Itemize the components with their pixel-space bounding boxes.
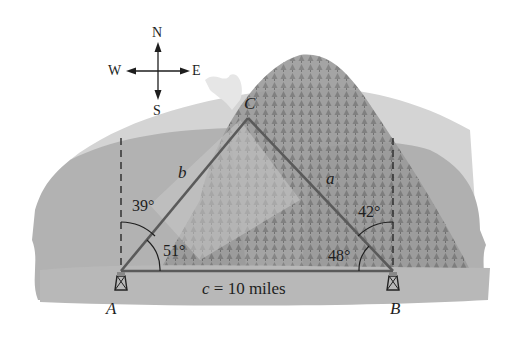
triangulation-diagram: N S W E C A B b a cc = 10 miles = 10 mil…: [0, 0, 515, 338]
compass-west-label: W: [108, 64, 121, 78]
vertex-label-b: B: [390, 300, 400, 317]
arrow-west-icon: [126, 68, 136, 75]
vertex-label-a: A: [106, 300, 116, 317]
arrow-south-icon: [155, 90, 162, 100]
angle-label-a-interior: 51°: [163, 243, 185, 259]
side-label-b: b: [178, 164, 187, 181]
landscape-background: [32, 55, 490, 306]
vertex-label-c: C: [244, 95, 255, 112]
side-label-c: cc = 10 miles = 10 miles: [202, 280, 286, 297]
angle-label-b-north: 42°: [358, 204, 380, 220]
side-label-a: a: [326, 170, 335, 187]
angle-label-a-north: 39°: [132, 198, 154, 214]
compass-east-label: E: [192, 64, 201, 78]
compass-rose: [126, 42, 190, 100]
side-c-rest: = 10 miles: [210, 279, 286, 298]
side-c-symbol: c: [202, 279, 210, 298]
compass-south-label: S: [153, 104, 161, 118]
arrow-north-icon: [155, 42, 162, 52]
arrow-east-icon: [180, 68, 190, 75]
compass-north-label: N: [152, 26, 162, 40]
angle-label-b-interior: 48°: [328, 248, 350, 264]
